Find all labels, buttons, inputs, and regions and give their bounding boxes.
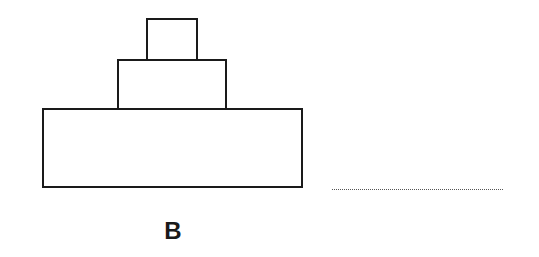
figure-label: B bbox=[160, 218, 186, 244]
top-rectangle bbox=[146, 18, 198, 61]
answer-dotted-line bbox=[332, 189, 503, 190]
middle-rectangle bbox=[117, 59, 227, 110]
base-rectangle bbox=[42, 108, 303, 188]
